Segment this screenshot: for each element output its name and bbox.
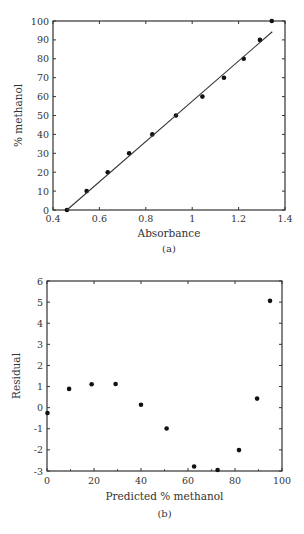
data-point bbox=[45, 411, 50, 416]
panel-caption: (b) bbox=[157, 508, 171, 519]
y-tick-label: -1 bbox=[34, 423, 43, 434]
y-tick-label: 90 bbox=[37, 34, 49, 45]
x-axis-label: Absorbance bbox=[137, 227, 201, 239]
x-tick-label: 0.6 bbox=[92, 213, 107, 224]
y-axis-ticks: -3-2-10123456 bbox=[34, 276, 282, 477]
y-tick-label: 50 bbox=[37, 110, 49, 121]
x-tick-label: 1.2 bbox=[231, 213, 246, 224]
data-point bbox=[89, 382, 94, 387]
data-point bbox=[237, 448, 242, 453]
data-point bbox=[268, 299, 273, 304]
data-markers bbox=[45, 299, 272, 473]
panel-a-calibration-plot: 0.40.60.811.21.40102030405060708090100Ab… bbox=[12, 16, 293, 255]
y-tick-label: 70 bbox=[37, 72, 49, 83]
data-point bbox=[192, 464, 197, 469]
data-point bbox=[67, 387, 72, 392]
panel-b-residual-plot: 020406080100-3-2-10123456Predicted % met… bbox=[10, 276, 291, 520]
panel-caption: (a) bbox=[162, 243, 176, 254]
fit-line bbox=[67, 32, 272, 210]
y-tick-label: 4 bbox=[37, 318, 43, 329]
x-tick-label: 1.4 bbox=[277, 213, 292, 224]
x-axis-label: Predicted % methanol bbox=[106, 490, 225, 502]
y-tick-label: 2 bbox=[37, 360, 43, 371]
y-tick-label: 5 bbox=[37, 297, 43, 308]
data-point bbox=[164, 426, 169, 431]
y-tick-label: 60 bbox=[37, 91, 49, 102]
data-point bbox=[113, 382, 118, 387]
x-tick-label: 0 bbox=[44, 475, 50, 486]
y-axis-label: Residual bbox=[10, 352, 22, 399]
data-point bbox=[222, 75, 227, 80]
y-tick-label: 0 bbox=[43, 205, 49, 216]
figure: 0.40.60.811.21.40102030405060708090100Ab… bbox=[0, 0, 304, 534]
plot-frame bbox=[53, 21, 285, 210]
x-tick-label: 60 bbox=[182, 475, 194, 486]
data-point bbox=[200, 94, 205, 99]
x-tick-label: 80 bbox=[229, 475, 241, 486]
plot-frame bbox=[47, 281, 282, 471]
y-tick-label: 80 bbox=[37, 53, 49, 64]
y-tick-label: 10 bbox=[37, 186, 49, 197]
data-point bbox=[255, 396, 260, 401]
y-axis-ticks: 0102030405060708090100 bbox=[31, 16, 285, 216]
y-axis-label: % methanol bbox=[12, 83, 24, 147]
x-axis-ticks: 020406080100 bbox=[44, 281, 291, 486]
x-tick-label: 1 bbox=[189, 213, 195, 224]
x-tick-label: 0.8 bbox=[138, 213, 153, 224]
y-tick-label: 40 bbox=[37, 129, 49, 140]
data-markers bbox=[65, 19, 274, 213]
y-tick-label: 30 bbox=[37, 148, 49, 159]
y-tick-label: 20 bbox=[37, 167, 49, 178]
x-axis-ticks: 0.40.60.811.21.4 bbox=[45, 21, 292, 224]
y-tick-label: 100 bbox=[31, 16, 49, 27]
x-tick-label: 20 bbox=[88, 475, 100, 486]
y-tick-label: 3 bbox=[37, 339, 43, 350]
data-point bbox=[139, 402, 144, 407]
x-tick-label: 100 bbox=[273, 475, 291, 486]
y-tick-label: 6 bbox=[37, 276, 43, 287]
y-tick-label: 0 bbox=[37, 402, 43, 413]
x-tick-label: 40 bbox=[135, 475, 147, 486]
y-tick-label: -3 bbox=[34, 466, 43, 477]
chart-svg: 0.40.60.811.21.40102030405060708090100Ab… bbox=[0, 0, 304, 534]
y-tick-label: -2 bbox=[34, 444, 43, 455]
data-point bbox=[215, 468, 220, 473]
y-tick-label: 1 bbox=[37, 381, 43, 392]
data-point bbox=[269, 19, 274, 24]
